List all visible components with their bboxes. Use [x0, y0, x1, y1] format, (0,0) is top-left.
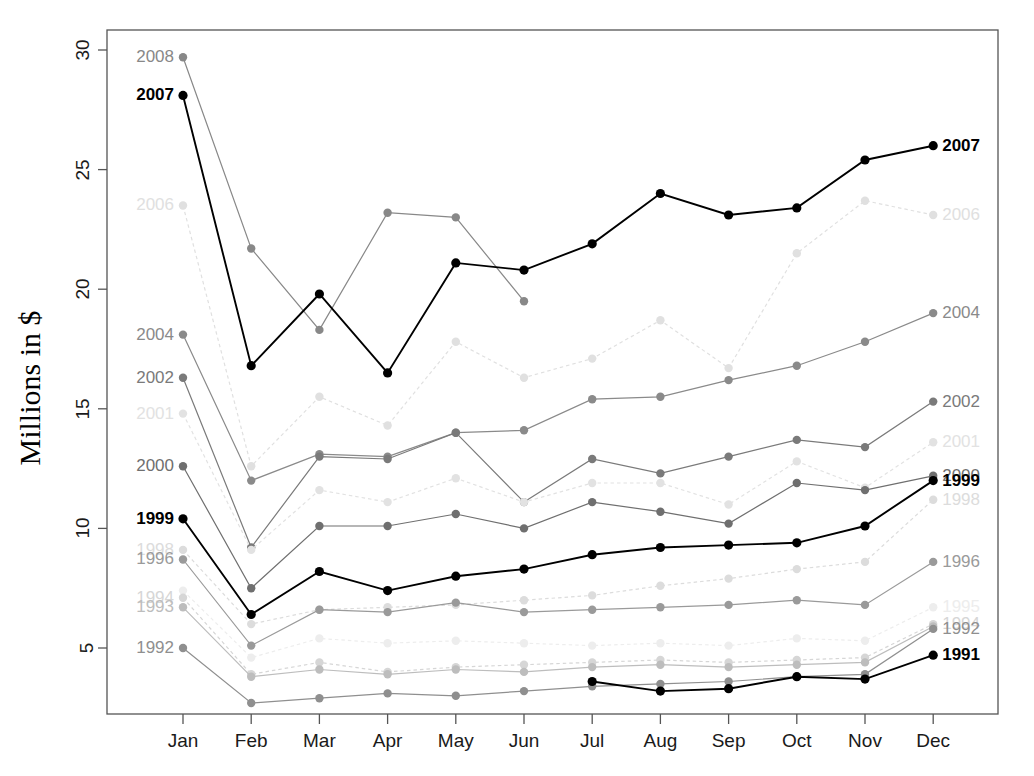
data-point-1993-Feb: [247, 673, 255, 681]
data-point-2000-Aug: [656, 508, 664, 516]
data-point-2007-Aug: [656, 189, 665, 198]
chart-figure: Millions in $ 30252015105 JanFebMarAprMa…: [0, 0, 1034, 776]
data-point-1998-Aug: [656, 582, 664, 590]
data-point-1992-Feb: [247, 699, 255, 707]
data-point-2001-Aug: [656, 479, 664, 487]
data-point-2000-Nov: [861, 486, 869, 494]
data-point-1998-Jun: [520, 596, 528, 604]
data-point-2008-Jan: [179, 53, 187, 61]
data-point-1996-Feb: [247, 641, 255, 649]
data-point-1998-Nov: [861, 558, 869, 566]
data-point-2004-Feb: [247, 476, 255, 484]
data-point-2007-Nov: [860, 155, 869, 164]
series-label-right-1992: 1992: [942, 619, 980, 639]
data-point-2006-Jul: [588, 354, 596, 362]
data-point-1996-Jan: [179, 555, 187, 563]
data-point-2000-Sep: [724, 519, 732, 527]
series-label-left-2007: 2007: [136, 85, 174, 105]
data-point-1999-Jan: [178, 514, 187, 523]
data-point-1994-Jan: [179, 594, 187, 602]
data-point-2000-Jan: [179, 462, 187, 470]
series-label-left-1999: 1999: [136, 509, 174, 529]
data-point-2004-Jul: [588, 395, 596, 403]
data-point-1993-Jul: [588, 663, 596, 671]
data-point-1999-Oct: [792, 538, 801, 547]
data-point-2007-Jul: [588, 239, 597, 248]
data-point-2001-Jul: [588, 479, 596, 487]
data-point-2000-Oct: [793, 479, 801, 487]
data-point-2004-Sep: [724, 376, 732, 384]
data-point-2001-May: [452, 474, 460, 482]
data-point-2000-Apr: [383, 522, 391, 530]
data-point-2002-Sep: [724, 452, 732, 460]
data-point-1995-Feb: [247, 653, 255, 661]
data-point-1999-Dec: [929, 476, 938, 485]
series-label-right-1991: 1991: [942, 645, 980, 665]
data-point-2007-Jun: [519, 266, 528, 275]
series-line-2001: [183, 414, 933, 550]
data-point-1995-Jul: [588, 641, 596, 649]
series-line-1995: [183, 591, 933, 658]
data-point-1991-Nov: [860, 675, 869, 684]
data-point-2001-Dec: [929, 438, 937, 446]
data-point-1993-Sep: [724, 663, 732, 671]
data-point-2002-Aug: [656, 469, 664, 477]
data-point-1996-Nov: [861, 601, 869, 609]
series-label-left-1996: 1996: [136, 549, 174, 569]
data-point-2004-Oct: [793, 362, 801, 370]
series-line-2002: [183, 378, 933, 548]
data-point-2002-Oct: [793, 436, 801, 444]
data-point-2004-Nov: [861, 338, 869, 346]
series-line-1996: [183, 560, 933, 646]
data-point-1992-May: [452, 692, 460, 700]
series-label-left-2000: 2000: [136, 456, 174, 476]
data-point-1992-Dec: [929, 625, 937, 633]
data-point-1993-Jan: [179, 603, 187, 611]
data-point-2001-Apr: [383, 498, 391, 506]
data-point-1992-Jan: [179, 644, 187, 652]
data-point-2000-Feb: [247, 584, 255, 592]
series-label-right-2002: 2002: [942, 392, 980, 412]
data-point-2007-Jan: [178, 91, 187, 100]
data-point-1996-Apr: [383, 608, 391, 616]
series-label-right-2004: 2004: [942, 303, 980, 323]
data-point-1993-Nov: [861, 658, 869, 666]
series-label-right-1999: 1999: [942, 471, 980, 491]
data-point-2002-Jul: [588, 455, 596, 463]
data-point-2006-May: [452, 338, 460, 346]
data-point-1991-Oct: [792, 672, 801, 681]
data-point-2004-Dec: [929, 309, 937, 317]
data-point-2001-Oct: [793, 457, 801, 465]
data-point-2006-Aug: [656, 316, 664, 324]
series-line-1994: [183, 598, 933, 675]
series-label-left-1993: 1993: [136, 597, 174, 617]
data-point-1995-Mar: [315, 634, 323, 642]
data-point-2008-Apr: [383, 209, 391, 217]
data-point-1993-Mar: [315, 665, 323, 673]
data-point-1995-Aug: [656, 639, 664, 647]
data-point-2007-Apr: [383, 368, 392, 377]
data-point-2007-Feb: [247, 361, 256, 370]
data-point-1993-Oct: [793, 661, 801, 669]
data-point-1996-May: [452, 598, 460, 606]
data-point-2002-Jan: [179, 374, 187, 382]
series-label-left-2004: 2004: [136, 325, 174, 345]
data-point-2006-Nov: [861, 197, 869, 205]
data-point-2007-Mar: [315, 289, 324, 298]
data-point-1995-Apr: [383, 639, 391, 647]
series-line-2006: [183, 201, 933, 467]
data-point-1995-Dec: [929, 603, 937, 611]
data-point-2006-Mar: [315, 393, 323, 401]
series-label-right-2006: 2006: [942, 205, 980, 225]
data-point-1992-Apr: [383, 689, 391, 697]
data-point-2000-Jul: [588, 498, 596, 506]
data-point-2008-May: [452, 213, 460, 221]
data-point-2004-Jan: [179, 330, 187, 338]
data-point-1995-Nov: [861, 637, 869, 645]
data-point-1996-Oct: [793, 596, 801, 604]
data-point-1999-Jun: [519, 565, 528, 574]
data-point-1995-May: [452, 637, 460, 645]
data-point-2002-Mar: [315, 452, 323, 460]
data-point-2002-Nov: [861, 443, 869, 451]
series-line-1993: [183, 607, 933, 676]
